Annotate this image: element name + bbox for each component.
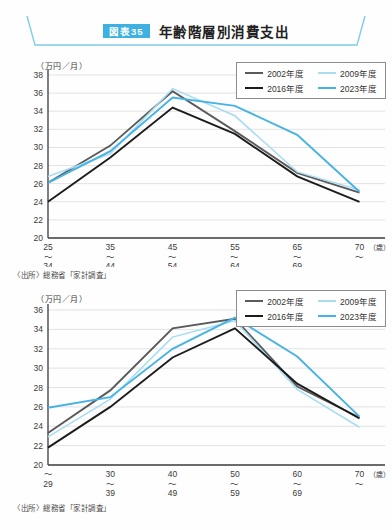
y-tick-label: 38 [34, 70, 44, 80]
legend: 2002年度2009年度2016年度2023年度 [236, 62, 386, 99]
series-2002-line [48, 319, 360, 433]
x-tick-label: 50〜59 [230, 469, 240, 498]
age-expenditure-chart-top: （万円／月） 2002年度2009年度2016年度2023年度 20222426… [0, 55, 392, 285]
y-tick-label: 34 [34, 106, 44, 116]
legend: 2002年度2009年度2016年度2023年度 [236, 290, 386, 327]
y-axis-unit-label: （万円／月） [36, 60, 87, 71]
legend-label: 2009年度 [340, 67, 377, 79]
x-tick-label: 70〜 [355, 242, 365, 262]
y-tick-label: 30 [34, 142, 44, 152]
x-tick-label: 65〜69 [292, 242, 302, 267]
legend-label: 2002年度 [267, 295, 304, 307]
legend-item-2016: 2016年度 [245, 82, 304, 94]
legend-item-2023: 2023年度 [318, 310, 377, 322]
y-tick-label: 26 [34, 402, 44, 412]
x-tick-label: 70〜 [355, 469, 365, 489]
age-unit-label: （歳） [369, 243, 390, 251]
legend-swatch [318, 72, 336, 74]
y-tick-label: 28 [34, 161, 44, 171]
y-tick-label: 36 [34, 88, 44, 98]
y-tick-label: 20 [34, 233, 44, 243]
y-tick-label: 26 [34, 179, 44, 189]
series-2009-line [48, 89, 360, 190]
legend-swatch [318, 87, 336, 89]
y-tick-label: 32 [34, 124, 44, 134]
x-tick-label: 45〜54 [168, 242, 178, 267]
figure-title: 年齢階層別消費支出 [159, 21, 290, 41]
legend-swatch [318, 315, 336, 317]
x-tick-label: 〜29 [43, 469, 53, 489]
legend-label: 2016年度 [267, 310, 304, 322]
x-tick-label: 25〜34 [43, 242, 53, 267]
legend-item-2009: 2009年度 [318, 67, 377, 79]
y-tick-label: 22 [34, 215, 44, 225]
age-expenditure-chart-bottom: （万円／月） 2002年度2009年度2016年度2023年度 20222426… [0, 285, 392, 530]
x-tick-label: 60〜69 [292, 469, 302, 498]
x-tick-label: 55〜64 [230, 242, 240, 267]
legend-swatch [245, 72, 263, 74]
legend-item-2002: 2002年度 [245, 295, 304, 307]
series-2002-line [48, 91, 360, 192]
y-tick-label: 28 [34, 383, 44, 393]
y-tick-label: 22 [34, 441, 44, 451]
source-note: 〈出所〉総務省「家計調査」 [13, 269, 111, 280]
legend-swatch [245, 315, 263, 317]
y-tick-label: 20 [34, 460, 44, 470]
legend-swatch [245, 300, 263, 302]
x-tick-label: 35〜44 [106, 242, 116, 267]
legend-item-2002: 2002年度 [245, 67, 304, 79]
y-tick-label: 32 [34, 344, 44, 354]
legend-label: 2009年度 [340, 295, 377, 307]
legend-label: 2023年度 [340, 310, 377, 322]
legend-item-2023: 2023年度 [318, 82, 377, 94]
y-axis-unit-label: （万円／月） [36, 293, 87, 304]
legend-item-2009: 2009年度 [318, 295, 377, 307]
y-tick-label: 24 [34, 197, 44, 207]
page: 図表35 年齢階層別消費支出 （万円／月） 2002年度2009年度2016年度… [0, 0, 392, 530]
y-tick-label: 34 [34, 324, 44, 334]
x-tick-label: 40〜49 [168, 469, 178, 498]
y-tick-label: 36 [34, 305, 44, 315]
y-tick-label: 30 [34, 363, 44, 373]
series-2009-line [48, 321, 360, 437]
legend-item-2016: 2016年度 [245, 310, 304, 322]
y-tick-label: 24 [34, 421, 44, 431]
legend-label: 2002年度 [267, 67, 304, 79]
age-unit-label: （歳） [369, 470, 390, 478]
figure-number-badge: 図表35 [103, 24, 150, 39]
legend-swatch [245, 87, 263, 89]
legend-label: 2023年度 [340, 82, 377, 94]
x-tick-label: 30〜39 [106, 469, 116, 498]
source-note: 〈出所〉総務省「家計調査」 [13, 502, 111, 513]
legend-label: 2016年度 [267, 82, 304, 94]
legend-swatch [318, 300, 336, 302]
